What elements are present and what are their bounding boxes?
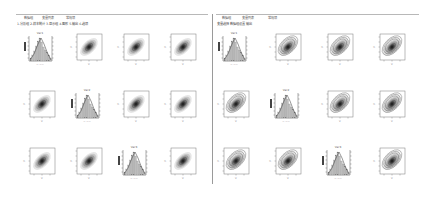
svg-text:Var1: Var1 xyxy=(37,31,44,35)
svg-text:— ——: — —— xyxy=(334,177,342,180)
svg-text:V: V xyxy=(41,177,43,180)
density-plot: VV xyxy=(116,30,152,70)
svg-text:V: V xyxy=(88,177,90,180)
svg-text:V: V xyxy=(182,120,184,123)
svg-text:V: V xyxy=(117,46,120,48)
panel-divider[interactable] xyxy=(212,14,213,184)
density-plot: VV xyxy=(22,87,58,127)
svg-text:Var1: Var1 xyxy=(231,31,238,35)
svg-text:V: V xyxy=(391,63,393,66)
density-plot: VV xyxy=(268,30,304,70)
histogram-plot: Var3— —— xyxy=(320,144,356,184)
left-panel: 数据组 变量列表 常规项 1.分析组 2.样本统计 3.显示组 4.图形 5.输… xyxy=(0,0,212,197)
svg-text:V: V xyxy=(391,177,393,180)
svg-text:V: V xyxy=(373,46,376,48)
svg-text:V: V xyxy=(164,46,167,48)
svg-text:— ——: — —— xyxy=(130,177,138,180)
histogram-plot: Var2— —— xyxy=(69,87,105,127)
density-plot: VV xyxy=(69,30,105,70)
svg-text:Var3: Var3 xyxy=(335,145,342,149)
svg-text:V: V xyxy=(217,103,220,105)
svg-text:V: V xyxy=(135,63,137,66)
svg-text:V: V xyxy=(269,160,272,162)
histogram-plot: Var1— —— xyxy=(216,30,252,70)
tab-variable-list[interactable]: 变量列表 xyxy=(242,16,254,20)
left-tab-bar: 数据组 变量列表 常规项 xyxy=(16,14,208,21)
left-subheader: 1.分析组 2.样本统计 3.显示组 4.图形 5.输出 6.选项 xyxy=(17,22,88,26)
svg-text:V: V xyxy=(23,160,26,162)
density-plot: VV xyxy=(216,144,252,184)
svg-text:V: V xyxy=(339,63,341,66)
svg-text:V: V xyxy=(235,177,237,180)
svg-text:V: V xyxy=(117,103,120,105)
svg-text:— ——: — —— xyxy=(83,120,91,123)
svg-text:V: V xyxy=(339,120,341,123)
svg-text:V: V xyxy=(23,103,26,105)
svg-text:V: V xyxy=(182,177,184,180)
svg-text:V: V xyxy=(70,160,73,162)
svg-text:V: V xyxy=(287,177,289,180)
density-plot: VV xyxy=(163,87,199,127)
svg-text:V: V xyxy=(373,103,376,105)
svg-text:V: V xyxy=(269,46,272,48)
density-plot: VV xyxy=(320,30,356,70)
density-plot: VV xyxy=(372,144,408,184)
histogram-plot: Var2— —— xyxy=(268,87,304,127)
svg-text:V: V xyxy=(164,160,167,162)
tab-data-group[interactable]: 数据组 xyxy=(24,16,33,20)
svg-text:Var3: Var3 xyxy=(131,145,138,149)
right-tab-bar: 数据组 变量列表 常规项 xyxy=(216,14,419,21)
density-plot: VV xyxy=(372,87,408,127)
svg-text:Var2: Var2 xyxy=(84,88,91,92)
svg-text:V: V xyxy=(235,120,237,123)
svg-text:V: V xyxy=(321,46,324,48)
density-plot: VV xyxy=(372,30,408,70)
svg-text:V: V xyxy=(373,160,376,162)
tab-general[interactable]: 常规项 xyxy=(268,16,277,20)
svg-text:V: V xyxy=(287,63,289,66)
histogram-plot: Var1— —— xyxy=(22,30,58,70)
tab-variable-list[interactable]: 变量列表 xyxy=(42,16,54,20)
tab-general[interactable]: 常规项 xyxy=(66,16,75,20)
svg-text:V: V xyxy=(88,63,90,66)
svg-text:V: V xyxy=(70,46,73,48)
density-plot: VV xyxy=(163,30,199,70)
svg-text:Var2: Var2 xyxy=(283,88,290,92)
density-plot: VV xyxy=(268,144,304,184)
density-plot: VV xyxy=(22,144,58,184)
svg-text:V: V xyxy=(217,160,220,162)
svg-text:V: V xyxy=(135,120,137,123)
right-subheader: 变量选择 数据组设置 输出 xyxy=(217,22,252,26)
svg-text:— ——: — —— xyxy=(36,63,44,66)
svg-text:V: V xyxy=(182,63,184,66)
svg-text:— ——: — —— xyxy=(230,63,238,66)
svg-text:V: V xyxy=(41,120,43,123)
density-plot: VV xyxy=(116,87,152,127)
density-plot: VV xyxy=(163,144,199,184)
density-plot: VV xyxy=(320,87,356,127)
density-plot: VV xyxy=(216,87,252,127)
svg-text:V: V xyxy=(391,120,393,123)
tab-data-group[interactable]: 数据组 xyxy=(222,16,231,20)
svg-text:V: V xyxy=(164,103,167,105)
right-panel: 数据组 变量列表 常规项 变量选择 数据组设置 输出 Var1— ——VVVVV… xyxy=(214,0,429,197)
svg-text:V: V xyxy=(321,103,324,105)
histogram-plot: Var3— —— xyxy=(116,144,152,184)
svg-text:— ——: — —— xyxy=(282,120,290,123)
density-plot: VV xyxy=(69,144,105,184)
